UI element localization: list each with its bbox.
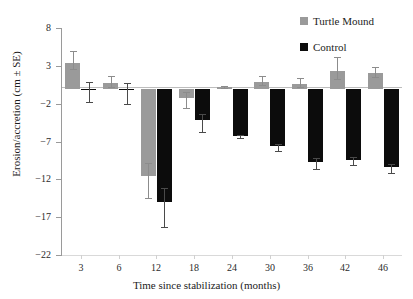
y-tick-mark bbox=[56, 179, 61, 180]
error-bar-cap bbox=[313, 158, 320, 159]
x-tick-label: 46 bbox=[378, 262, 388, 273]
x-tick-mark bbox=[156, 255, 157, 259]
error-bar-cap bbox=[259, 76, 266, 77]
error-bar-cap bbox=[183, 92, 190, 93]
x-tick-label: 42 bbox=[340, 262, 350, 273]
error-bar-stem bbox=[262, 76, 263, 85]
error-bar-stem bbox=[164, 188, 165, 227]
x-tick-mark bbox=[383, 255, 384, 259]
error-bar-cap bbox=[70, 51, 77, 52]
y-tick-label: −12 bbox=[35, 174, 51, 184]
error-bar-cap bbox=[350, 157, 357, 158]
bar-control-46 bbox=[384, 89, 399, 168]
error-bar-stem bbox=[202, 114, 203, 132]
x-tick-label: 12 bbox=[151, 262, 161, 273]
x-tick-mark bbox=[345, 255, 346, 259]
error-bar-cap bbox=[161, 188, 168, 189]
y-tick-label: −2 bbox=[40, 99, 51, 109]
y-tick-mark bbox=[56, 217, 61, 218]
x-tick-label: 6 bbox=[117, 262, 122, 273]
x-tick-label: 36 bbox=[303, 262, 313, 273]
y-axis-title: Erosion/accretion (cm ± SE) bbox=[10, 16, 22, 212]
legend-swatch-icon-turtle-mound bbox=[300, 17, 308, 25]
error-bar-cap bbox=[108, 76, 115, 77]
error-bar-cap bbox=[161, 227, 168, 228]
error-bar-cap bbox=[86, 82, 93, 83]
error-bar-stem bbox=[127, 83, 128, 104]
error-bar-cap bbox=[372, 67, 379, 68]
error-bar-cap bbox=[199, 132, 206, 133]
error-bar-stem bbox=[316, 158, 317, 169]
error-bar-cap bbox=[275, 144, 282, 145]
error-bar-cap bbox=[221, 88, 228, 89]
y-tick-label: 8 bbox=[46, 23, 51, 33]
x-tick-label: 18 bbox=[189, 262, 199, 273]
legend-label-turtle-mound: Turtle Mound bbox=[313, 15, 374, 27]
error-bar-stem bbox=[300, 78, 301, 87]
bar-control-36 bbox=[308, 89, 323, 162]
x-tick-label: 24 bbox=[227, 262, 237, 273]
bar-control-12 bbox=[157, 89, 172, 203]
chart-figure: Turtle Mound Control 83−2−7−12−17−22 361… bbox=[0, 0, 413, 299]
error-bar-cap bbox=[388, 164, 395, 165]
bar-control-24 bbox=[233, 89, 248, 137]
error-bar-cap bbox=[334, 57, 341, 58]
error-bar-cap bbox=[350, 165, 357, 166]
x-tick-mark bbox=[232, 255, 233, 259]
plot-area bbox=[62, 28, 402, 255]
error-bar-cap bbox=[145, 163, 152, 164]
error-bar-stem bbox=[148, 163, 149, 198]
error-bar-cap bbox=[124, 83, 131, 84]
x-tick-label: 30 bbox=[265, 262, 275, 273]
y-tick-label: 3 bbox=[46, 61, 51, 71]
error-bar-cap bbox=[86, 102, 93, 103]
error-bar-cap bbox=[199, 114, 206, 115]
error-bar-stem bbox=[186, 92, 187, 108]
error-bar-cap bbox=[297, 78, 304, 79]
error-bar-stem bbox=[353, 157, 354, 165]
y-tick-label: −22 bbox=[35, 250, 51, 260]
y-tick-mark bbox=[56, 66, 61, 67]
error-bar-cap bbox=[334, 79, 341, 80]
x-tick-mark bbox=[308, 255, 309, 259]
error-bar-cap bbox=[124, 104, 131, 105]
error-bar-stem bbox=[111, 76, 112, 87]
error-bar-stem bbox=[391, 164, 392, 172]
error-bar-cap bbox=[237, 138, 244, 139]
y-tick-mark bbox=[56, 28, 61, 29]
bar-control-42 bbox=[346, 89, 361, 160]
x-tick-mark bbox=[81, 255, 82, 259]
x-tick-mark bbox=[119, 255, 120, 259]
error-bar-cap bbox=[313, 169, 320, 170]
error-bar-stem bbox=[375, 67, 376, 76]
y-tick-label: −17 bbox=[35, 212, 51, 222]
x-axis-title: Time since stabilization (months) bbox=[0, 279, 413, 291]
error-bar-cap bbox=[70, 69, 77, 70]
error-bar-cap bbox=[297, 87, 304, 88]
y-tick-mark bbox=[56, 255, 61, 256]
error-bar-stem bbox=[89, 82, 90, 102]
x-tick-mark bbox=[270, 255, 271, 259]
error-bar-cap bbox=[183, 108, 190, 109]
error-bar-stem bbox=[337, 57, 338, 79]
error-bar-cap bbox=[275, 151, 282, 152]
error-bar-cap bbox=[372, 77, 379, 78]
error-bar-stem bbox=[278, 144, 279, 151]
x-tick-mark bbox=[194, 255, 195, 259]
error-bar-cap bbox=[145, 198, 152, 199]
y-tick-mark bbox=[56, 104, 61, 105]
error-bar-cap bbox=[221, 86, 228, 87]
bar-control-30 bbox=[270, 89, 285, 147]
error-bar-cap bbox=[388, 173, 395, 174]
error-bar-cap bbox=[259, 85, 266, 86]
error-bar-cap bbox=[108, 87, 115, 88]
y-tick-mark bbox=[56, 142, 61, 143]
y-tick-label: −7 bbox=[40, 137, 51, 147]
error-bar-stem bbox=[73, 51, 74, 69]
error-bar-cap bbox=[237, 135, 244, 136]
x-tick-label: 3 bbox=[79, 262, 84, 273]
